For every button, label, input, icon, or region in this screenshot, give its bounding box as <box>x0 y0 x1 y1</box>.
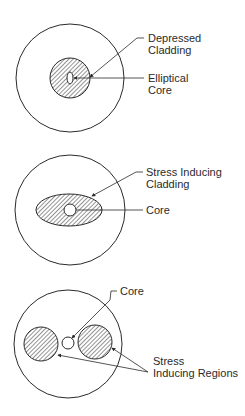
label-line: Inducing Regions <box>153 367 238 379</box>
leader-depressed-cladding <box>90 38 144 77</box>
leader-stress-cladding <box>92 172 143 196</box>
label-line: Elliptical <box>148 72 188 84</box>
diagram-stress-regions <box>14 290 148 398</box>
label-line: Stress <box>153 355 238 367</box>
left-stress-region <box>24 327 58 361</box>
label-line: Cladding <box>148 44 201 56</box>
label-core: Core <box>120 285 144 297</box>
label-elliptical-core: Elliptical Core <box>148 72 188 96</box>
label-depressed-cladding: Depressed Cladding <box>148 32 201 56</box>
fiber-cross-sections-diagram <box>0 0 245 416</box>
label-line: Core <box>148 84 188 96</box>
diagram-elliptical-core <box>16 24 144 132</box>
core-circle <box>64 204 76 216</box>
diagram-stress-cladding <box>15 155 143 265</box>
label-line: Depressed <box>148 32 201 44</box>
elliptical-core <box>67 72 73 84</box>
core-circle <box>62 337 74 349</box>
label-line: Stress Inducing <box>146 166 222 178</box>
right-stress-region <box>78 325 112 359</box>
label-stress-inducing-cladding: Stress Inducing Cladding <box>146 166 222 190</box>
label-line: Cladding <box>146 178 222 190</box>
label-core: Core <box>146 204 170 216</box>
label-stress-inducing-regions: Stress Inducing Regions <box>153 355 238 379</box>
